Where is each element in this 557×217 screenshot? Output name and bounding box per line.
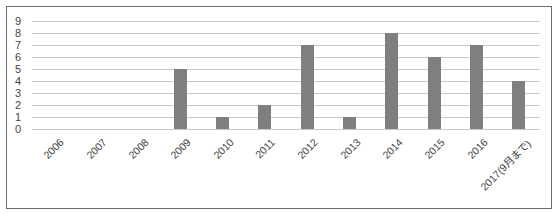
x-axis-tick-label: 2015 (422, 136, 447, 161)
gridline (32, 93, 540, 94)
y-axis-tick-label: 3 (12, 88, 24, 99)
x-axis-tick-label: 2006 (41, 136, 66, 161)
bar-2013 (343, 117, 356, 129)
y-axis-tick-label: 9 (12, 16, 24, 27)
x-axis-tick-label: 2010 (210, 136, 235, 161)
x-axis-tick-label: 2008 (126, 136, 151, 161)
bar-2011 (258, 105, 271, 129)
y-axis-tick-label: 2 (12, 100, 24, 111)
x-axis-tick-label: 2012 (295, 136, 320, 161)
y-axis-tick-label: 4 (12, 76, 24, 87)
gridline (32, 21, 540, 22)
y-axis-tick-label: 6 (12, 52, 24, 63)
bar-2010 (216, 117, 229, 129)
bar-2016 (470, 45, 483, 129)
x-axis-tick-label: 2016 (464, 136, 489, 161)
y-axis-tick-label: 5 (12, 64, 24, 75)
x-axis-tick-label: 2007 (83, 136, 108, 161)
bar-2017(9月まで) (512, 81, 525, 129)
gridline (32, 117, 540, 118)
bar-2012 (301, 45, 314, 129)
bar-2015 (428, 57, 441, 129)
bar-2009 (174, 69, 187, 129)
gridline (32, 69, 540, 70)
gridline (32, 33, 540, 34)
x-axis-tick-label: 2009 (168, 136, 193, 161)
gridline (32, 129, 540, 130)
x-axis-tick-label: 2013 (337, 136, 362, 161)
y-axis-tick-label: 8 (12, 28, 24, 39)
gridline (32, 81, 540, 82)
bar-chart: 0123456789200620072008200920102011201220… (0, 0, 557, 217)
gridline (32, 57, 540, 58)
bar-2014 (385, 33, 398, 129)
gridline (32, 105, 540, 106)
y-axis-tick-label: 7 (12, 40, 24, 51)
x-axis-tick-label: 2011 (252, 136, 276, 160)
x-axis-tick-label: 2014 (380, 136, 405, 161)
y-axis-tick-label: 0 (12, 124, 24, 135)
gridline (32, 45, 540, 46)
y-axis-tick-label: 1 (12, 112, 24, 123)
